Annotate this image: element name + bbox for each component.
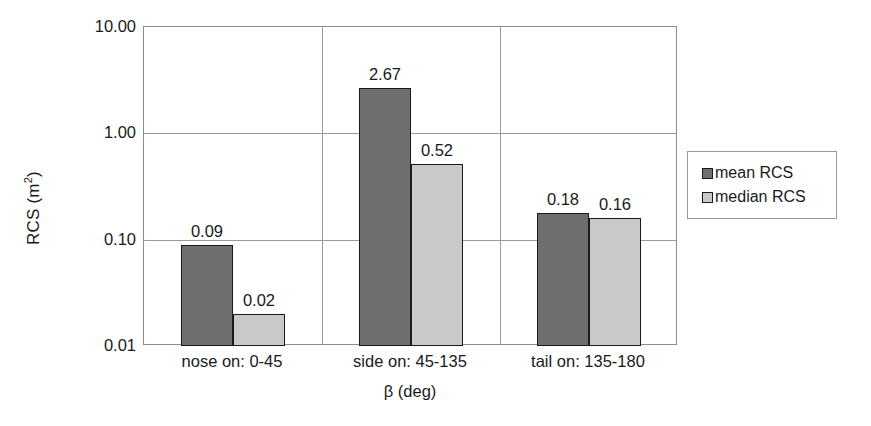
y-axis-title-exponent: 2 xyxy=(22,177,34,183)
bar-value-label: 0.02 xyxy=(223,292,295,309)
bar-median[interactable] xyxy=(589,218,641,346)
bar-value-label: 0.52 xyxy=(401,142,473,159)
x-axis-tick-label: side on: 45-135 xyxy=(321,352,499,371)
x-axis-title: β (deg) xyxy=(143,382,677,401)
y-axis-tick-label: 10.00 xyxy=(66,18,136,34)
plot-area: 0.090.022.670.520.180.16 xyxy=(143,26,677,345)
rcs-bar-chart-figure: RCS (m2) 10.001.000.100.01 0.090.022.670… xyxy=(0,0,871,426)
bar-mean[interactable] xyxy=(537,213,589,346)
y-axis-tick-label: 0.01 xyxy=(66,337,136,353)
category-separator xyxy=(322,27,323,344)
bar-value-label: 0.09 xyxy=(171,223,243,240)
bar-value-label: 0.16 xyxy=(579,196,651,213)
bar-median[interactable] xyxy=(411,164,463,346)
legend-swatch-mean xyxy=(702,168,713,179)
category-separator xyxy=(500,27,501,344)
bar-mean[interactable] xyxy=(359,88,411,346)
legend-swatch-median xyxy=(702,192,713,203)
legend-label: mean RCS xyxy=(715,164,793,182)
y-axis-tick-labels: 10.001.000.100.01 xyxy=(62,0,136,426)
chart-legend: mean RCSmedian RCS xyxy=(687,151,837,219)
y-axis-title: RCS (m2) xyxy=(22,138,46,278)
y-axis-title-base: RCS (m xyxy=(24,183,43,245)
y-axis-title-tail: ) xyxy=(24,171,43,177)
bar-value-label: 2.67 xyxy=(349,66,421,83)
x-axis-tick-label: tail on: 135-180 xyxy=(499,352,677,371)
y-axis-tick-label: 1.00 xyxy=(66,124,136,140)
y-axis-tick-label: 0.10 xyxy=(66,231,136,247)
legend-label: median RCS xyxy=(715,188,806,206)
legend-entry[interactable]: mean RCS xyxy=(702,161,836,185)
bar-median[interactable] xyxy=(233,314,285,346)
legend-entry[interactable]: median RCS xyxy=(702,185,836,209)
x-axis-tick-label: nose on: 0-45 xyxy=(143,352,321,371)
